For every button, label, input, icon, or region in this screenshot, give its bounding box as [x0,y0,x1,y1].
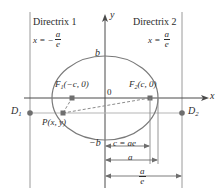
directrix-2-title: Directrix 2 [133,17,177,27]
directrix-2-equation-denominator: e [164,40,171,49]
x-axis-label: x [210,91,214,101]
semi-minor-bottom-label: −b [89,138,101,148]
origin-label: 0 [107,88,112,97]
point-p-label: P(x, y) [42,118,66,127]
directrix-1-foot-point [27,110,33,116]
directrix-1-foot-subscript: 1 [18,110,21,117]
ellipse-directrix-figure: Directrix 1 x = −ae Directrix 2 x = ae y… [0,0,224,194]
point-p-marker [61,111,66,116]
directrix-1-equation-prefix: x = − [33,35,54,45]
directrix-2-equation: x = ae [148,30,171,49]
dim-a-over-e-arrow-right [176,174,182,179]
directrix-1-equation-denominator: e [55,40,62,49]
directrix-1-equation: x = −ae [33,30,62,49]
dim-a-over-e-label: ae [138,167,147,186]
directrix-2-foot-point [179,110,185,116]
directrix-2-foot-subscript: 2 [195,110,198,117]
directrix-2-foot-label: D2 [188,106,199,118]
focus-2-coords: (c, 0) [138,79,157,89]
point-p-coords: (x, y) [48,117,66,127]
dim-a-arrow-left [105,158,111,163]
dim-c-equals-ae-label: c = ae [113,139,136,148]
dim-c-arrow-left [105,144,111,149]
dim-a-over-e-arrow-left [105,174,111,179]
focus-2-label: F2(c, 0) [129,80,157,90]
y-axis-label: y [110,10,114,20]
directrix-1-foot-label: D1 [11,106,22,118]
dim-a-over-e-denominator: e [139,177,146,186]
focus-1-point [70,96,75,101]
semi-minor-top-label: b [95,48,100,58]
directrix-1-title: Directrix 1 [33,17,77,27]
focus-1-label: F1(−c, 0) [55,80,89,90]
focal-radius-p-f2 [63,98,150,113]
directrix-2-equation-prefix: x = [148,35,163,45]
focus-1-coords: (−c, 0) [64,79,89,89]
dim-c-arrow-right [144,144,150,149]
dim-a-label: a [128,153,133,162]
dim-a-arrow-right [152,158,158,163]
